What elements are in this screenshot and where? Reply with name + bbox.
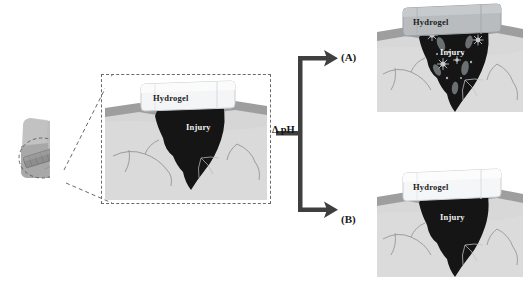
wound-cross-section (105, 78, 267, 200)
branch-b-label: (B) (341, 213, 356, 225)
outcome-panel-b (377, 167, 523, 277)
outcome-panel-a (377, 2, 523, 112)
figure-canvas: Hydrogel Injury Δ pH (A) (B) (0, 0, 527, 281)
ph-change-label: Δ pH (272, 124, 295, 135)
branch-a-label: (A) (341, 51, 356, 63)
